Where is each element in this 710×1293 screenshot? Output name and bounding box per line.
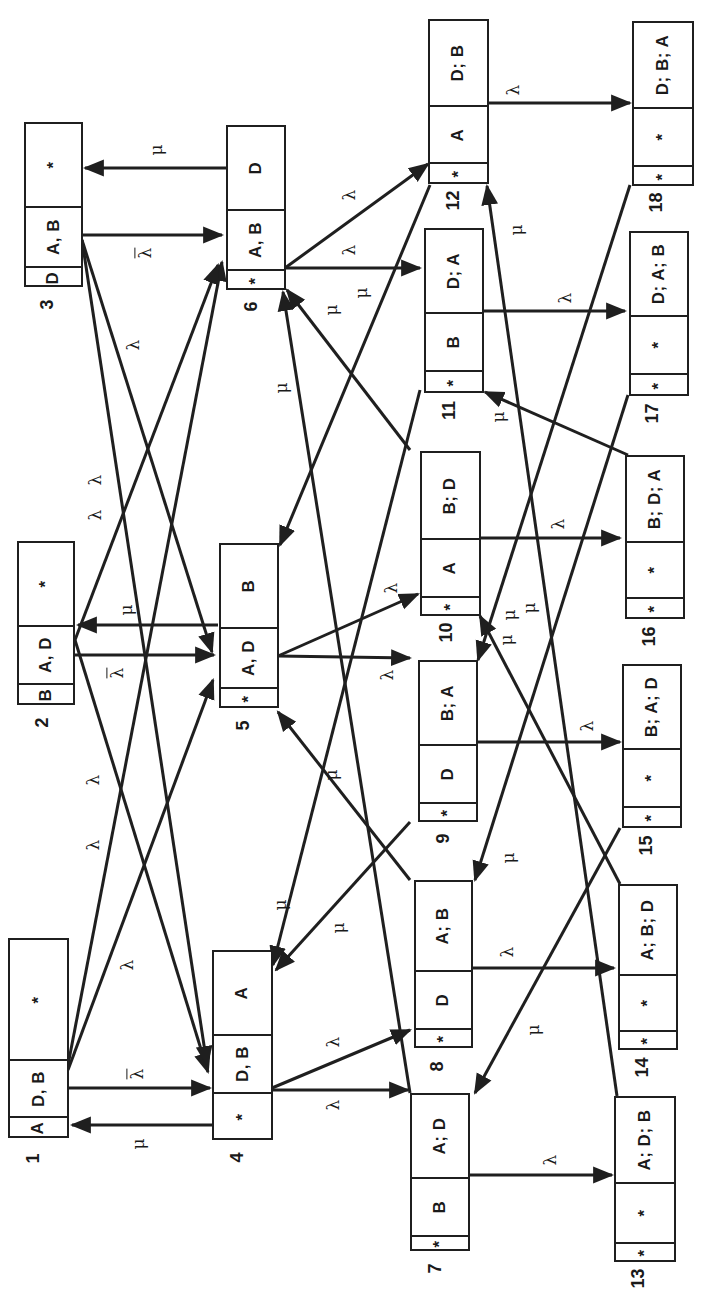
label-mu: μ bbox=[498, 852, 518, 863]
state-number: 3 bbox=[37, 299, 58, 309]
edge-3-4 bbox=[82, 240, 207, 1065]
state-number: 1 bbox=[23, 1153, 44, 1163]
state-13: A; D; B * * bbox=[614, 1096, 676, 1262]
state-number: 9 bbox=[433, 833, 454, 843]
state-number: 2 bbox=[32, 717, 53, 727]
label-lambda-4-7: λ bbox=[323, 1100, 343, 1111]
state-1: * D, B A bbox=[8, 938, 69, 1138]
cell: A; D; B bbox=[635, 1109, 655, 1170]
cell: * bbox=[444, 379, 464, 386]
state-3: * A, B D bbox=[24, 122, 83, 287]
label-mu: μ bbox=[523, 1024, 543, 1035]
state-9: B; A D * bbox=[418, 660, 478, 822]
label-lambda-bar-1-4: λ bbox=[127, 1069, 147, 1080]
edge-5-9 bbox=[278, 656, 410, 658]
cell: D, B bbox=[233, 1046, 253, 1082]
label-mu-5-2: μ bbox=[116, 604, 136, 615]
cell: A; D bbox=[430, 1118, 450, 1155]
state-number: 4 bbox=[227, 1152, 248, 1162]
cell: A, B bbox=[246, 222, 266, 258]
state-7: A; D B * bbox=[410, 1093, 470, 1251]
label-lambda: λ bbox=[83, 775, 103, 786]
edge-3-5 bbox=[82, 240, 212, 652]
edge-7-6 bbox=[283, 292, 410, 1093]
state-18: D; B; A * * bbox=[632, 21, 694, 186]
cell: * bbox=[239, 695, 259, 702]
label-lambda-bar-2-5: λ bbox=[107, 668, 127, 679]
cell: B bbox=[36, 689, 56, 702]
label-lambda: λ bbox=[117, 960, 137, 971]
cell: D; A bbox=[444, 253, 464, 289]
state-number: 11 bbox=[439, 401, 460, 420]
label-mu: μ bbox=[321, 769, 341, 780]
state-17: D; A; B * * bbox=[629, 231, 689, 396]
edge-12-5 bbox=[280, 185, 430, 545]
label-mu: μ bbox=[496, 634, 516, 645]
edge-2-4 bbox=[75, 640, 208, 1072]
state-4: A D, B * bbox=[212, 950, 273, 1140]
label-lambda-7-13: λ bbox=[540, 1155, 560, 1166]
edge-14-10 bbox=[480, 616, 620, 884]
label-mu: μ bbox=[271, 382, 291, 393]
cell: D bbox=[434, 994, 454, 1007]
label-lambda-12-18: λ bbox=[503, 85, 523, 96]
label-lambda-6-11: λ bbox=[339, 245, 359, 256]
label-mu: μ bbox=[270, 899, 290, 910]
cell: * bbox=[233, 1113, 253, 1120]
cell: * bbox=[653, 173, 673, 180]
edge-1-5 bbox=[68, 680, 213, 1070]
label-mu: μ bbox=[519, 602, 539, 613]
label-lambda-11-17: λ bbox=[555, 293, 575, 304]
cell: A; B; D bbox=[638, 899, 658, 960]
state-10: B; D A * bbox=[420, 451, 481, 616]
state-number: 13 bbox=[628, 1268, 649, 1288]
cell: * bbox=[635, 1249, 655, 1256]
state-number: 5 bbox=[233, 720, 254, 730]
label-lambda: λ bbox=[85, 475, 105, 486]
cell: B bbox=[444, 336, 464, 349]
label-mu: μ bbox=[506, 224, 526, 235]
cell: D bbox=[438, 768, 458, 781]
edge-8-5 bbox=[278, 712, 410, 880]
cell: D; B; A bbox=[653, 35, 673, 95]
cell: D bbox=[44, 271, 64, 284]
cell: * bbox=[29, 996, 49, 1003]
state-16: B; D; A * * bbox=[625, 455, 685, 619]
state-number: 7 bbox=[425, 1263, 446, 1273]
label-mu: μ bbox=[351, 287, 371, 298]
label-lambda: λ bbox=[123, 340, 143, 351]
state-number: 6 bbox=[241, 301, 262, 311]
state-2: * A, D B bbox=[17, 541, 75, 705]
cell: * bbox=[438, 809, 458, 816]
label-lambda-4-8: λ bbox=[323, 1037, 343, 1048]
label-lambda-5-10: λ bbox=[381, 583, 401, 594]
label-lambda-bar-3-6: λ bbox=[135, 248, 155, 259]
cell: * bbox=[638, 1037, 658, 1044]
cell: * bbox=[642, 814, 662, 821]
label-lambda: λ bbox=[85, 510, 105, 521]
cell: D; B bbox=[448, 45, 468, 82]
cell: D, B bbox=[29, 1071, 49, 1107]
cell: A bbox=[29, 1122, 49, 1135]
cell: * bbox=[449, 170, 469, 177]
cell: A, D bbox=[239, 640, 259, 676]
cell: A, B bbox=[44, 219, 64, 255]
cell: * bbox=[246, 277, 266, 284]
label-mu: μ bbox=[488, 411, 508, 422]
cell: * bbox=[649, 382, 669, 389]
cell: A bbox=[449, 128, 469, 141]
cell: B; D; A bbox=[645, 469, 665, 529]
state-15: B; A; D * * bbox=[622, 664, 682, 828]
cell: * bbox=[642, 774, 662, 781]
state-number: 15 bbox=[636, 835, 657, 855]
cell: * bbox=[653, 133, 673, 140]
cell: B bbox=[430, 1201, 450, 1214]
label-lambda: λ bbox=[83, 840, 103, 851]
label-lambda-9-15: λ bbox=[577, 721, 597, 732]
label-mu-6-3: μ bbox=[146, 144, 166, 155]
cell: B; A bbox=[438, 685, 458, 721]
cell: * bbox=[638, 999, 658, 1006]
label-mu: μ bbox=[499, 609, 519, 620]
state-number: 14 bbox=[632, 1057, 653, 1077]
label-mu-4-1: μ bbox=[128, 1138, 148, 1149]
